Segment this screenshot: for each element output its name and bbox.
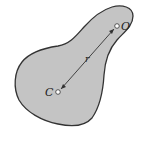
- distance-label: r: [85, 54, 90, 64]
- reference-point: [115, 24, 120, 29]
- body-diagram: C O r: [0, 0, 141, 143]
- centroid-label: C: [45, 86, 54, 99]
- diagram-canvas: C O r: [0, 0, 141, 143]
- body-outline: [15, 6, 133, 126]
- centroid-point: [56, 90, 61, 95]
- reference-label: O: [121, 20, 130, 33]
